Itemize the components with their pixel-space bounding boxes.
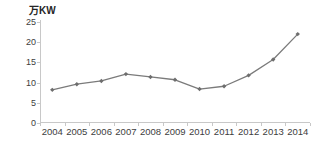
y-axis-tick-label: 0 — [31, 119, 36, 128]
data-point-marker — [75, 82, 79, 86]
x-axis-tick-label: 2013 — [263, 127, 284, 137]
y-axis-tick-label: 10 — [26, 78, 36, 87]
y-axis-tick-label: 15 — [26, 58, 36, 67]
x-axis-tick-label: 2007 — [115, 127, 136, 137]
data-series — [40, 22, 310, 123]
y-axis-unit-label: 万KW — [29, 5, 56, 17]
y-axis-tick-label: 20 — [26, 38, 36, 47]
y-axis-tick-label: 25 — [26, 18, 36, 27]
y-axis-tick-label: 5 — [31, 98, 36, 107]
x-axis-tick-label: 2009 — [164, 127, 185, 137]
x-axis-tick-label: 2012 — [238, 127, 259, 137]
x-axis-tick-label: 2008 — [140, 127, 161, 137]
data-point-marker — [50, 88, 54, 92]
x-axis-tick-label: 2005 — [66, 127, 87, 137]
plot-area: 0510152025 20042005200620072008200920102… — [40, 22, 310, 123]
x-axis-tick-label: 2014 — [287, 127, 308, 137]
x-axis-tick-label: 2011 — [214, 127, 234, 137]
x-axis-tick-label: 2004 — [42, 127, 63, 137]
data-point-marker — [148, 75, 152, 79]
x-axis-tick-label: 2010 — [189, 127, 210, 137]
x-axis-tick-mark — [310, 123, 311, 126]
line-chart: 万KW 0510152025 2004200520062007200820092… — [0, 0, 317, 155]
x-axis-tick-label: 2006 — [91, 127, 112, 137]
data-point-marker — [197, 87, 201, 91]
data-point-marker — [124, 72, 128, 76]
data-point-marker — [222, 84, 226, 88]
x-axis-tick-mark — [212, 123, 213, 126]
data-point-marker — [173, 78, 177, 82]
data-point-marker — [99, 79, 103, 83]
